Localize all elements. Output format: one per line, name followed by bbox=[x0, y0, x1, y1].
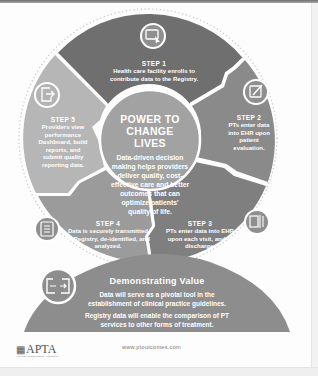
step-2-description: PTs enter data into EHR upon patient eva… bbox=[226, 122, 272, 152]
apta-tagline: American Physical Therapy Association bbox=[16, 355, 58, 358]
step-2-title: STEP 2 bbox=[226, 114, 272, 122]
step-2-text: STEP 2 PTs enter data into EHR upon pati… bbox=[226, 114, 272, 152]
step-3-text: STEP 3 PTs enter data into EHR upon each… bbox=[164, 220, 236, 251]
step-5-title: STEP 5 bbox=[36, 116, 90, 124]
banner-icon-badge bbox=[41, 269, 75, 303]
apta-emblem-icon: ▦ bbox=[16, 344, 25, 355]
step-3-icon-badge bbox=[245, 210, 269, 234]
step-3-description: PTs enter data into EHR upon each visit,… bbox=[164, 228, 236, 251]
center-title-line2: CHANGE LIVES bbox=[110, 125, 190, 149]
step-4-icon-badge bbox=[35, 217, 59, 241]
banner-title: Demonstrating Value bbox=[82, 276, 232, 287]
step-4-text: STEP 4 Data is securely transmitted to R… bbox=[66, 220, 150, 251]
step-2-icon-badge bbox=[244, 80, 268, 104]
step-1-icon-badge bbox=[141, 24, 165, 48]
step-4-description: Data is securely transmitted to Registry… bbox=[66, 228, 150, 251]
step-1-text: STEP 1 Health care facility enrolls to c… bbox=[102, 60, 206, 83]
step-4-title: STEP 4 bbox=[66, 220, 150, 228]
bottom-edge-strip bbox=[0, 367, 318, 376]
step-5-icon-badge bbox=[35, 83, 59, 107]
banner-paragraph-1: Data will serve as a pivotal tool in the… bbox=[82, 291, 232, 308]
step-1-description: Health care facility enrolls to contribu… bbox=[102, 68, 206, 83]
step-5-description: Providers view performance Dashboard, bu… bbox=[36, 124, 90, 169]
banner-text: Demonstrating Value Data will serve as a… bbox=[82, 276, 232, 329]
step-5-text: STEP 5 Providers view performance Dashbo… bbox=[36, 116, 90, 169]
footer-url[interactable]: www.ptoutcomes.com bbox=[122, 344, 181, 350]
center-title-line1: POWER TO bbox=[110, 113, 190, 125]
center-description: Data-driven decision making helps provid… bbox=[110, 154, 190, 217]
banner-paragraph-2: Registry data will enable the comparison… bbox=[82, 312, 232, 329]
step-1-title: STEP 1 bbox=[102, 60, 206, 68]
step-3-title: STEP 3 bbox=[164, 220, 236, 228]
center-text: POWER TO CHANGE LIVES Data-driven decisi… bbox=[110, 113, 190, 217]
